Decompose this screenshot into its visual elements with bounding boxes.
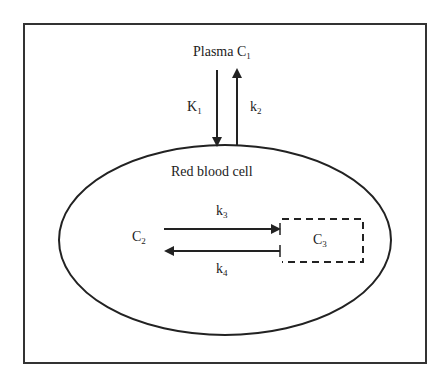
rate-k4-label: k4 bbox=[216, 261, 228, 278]
rate-k2-label: k2 bbox=[250, 99, 262, 116]
rate-k1-label: K1 bbox=[187, 99, 202, 116]
compartment-c2-label: C2 bbox=[132, 229, 146, 246]
rate-k3-label: k3 bbox=[216, 203, 228, 220]
plasma-label: Plasma C1 bbox=[193, 44, 251, 61]
compartment-c3-label: C3 bbox=[313, 232, 327, 249]
outer-frame bbox=[24, 24, 426, 363]
red-blood-cell-label: Red blood cell bbox=[171, 164, 253, 179]
compartment-model-diagram: Plasma C1 K1 k2 Red blood cell C2 k3 k4 … bbox=[0, 0, 448, 378]
